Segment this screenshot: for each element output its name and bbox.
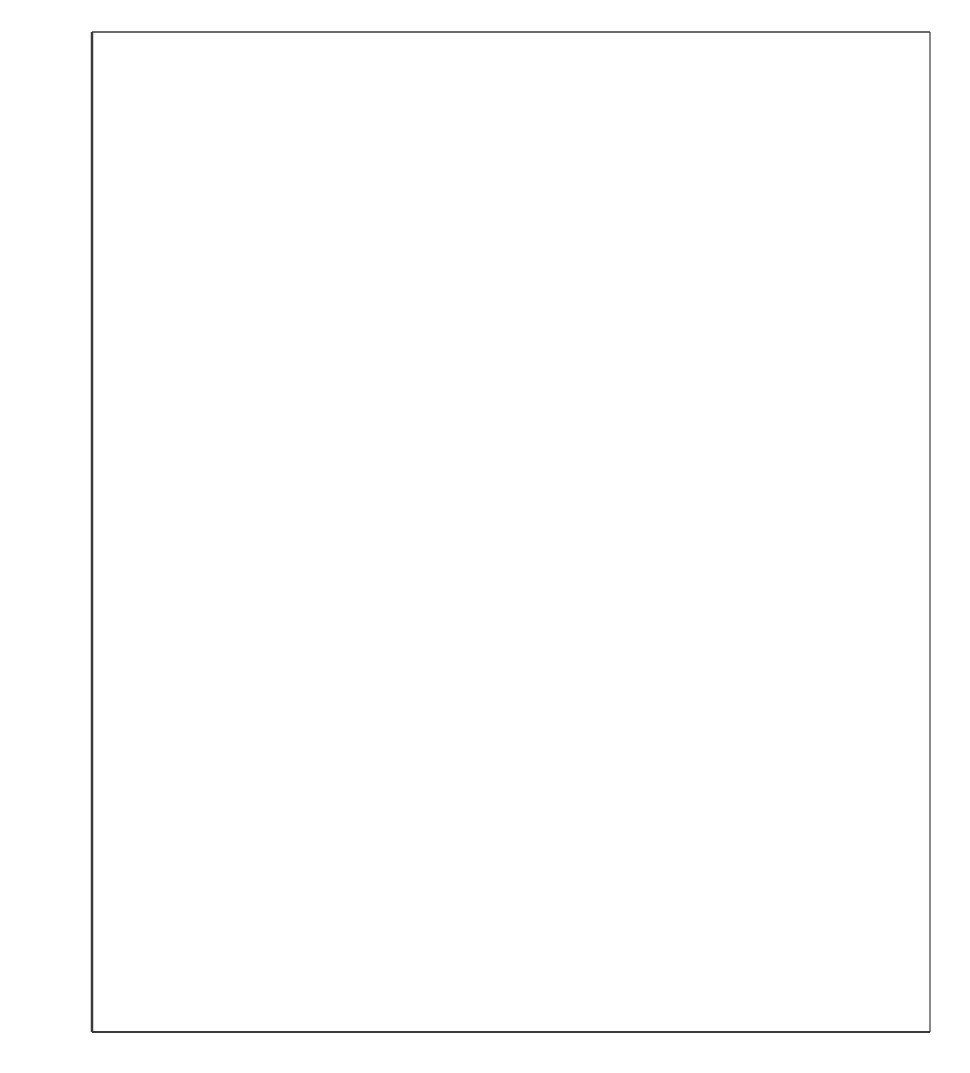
plot-background bbox=[92, 32, 930, 1032]
crime-rate-area-chart bbox=[0, 0, 970, 1073]
chart-canvas bbox=[0, 0, 970, 1073]
